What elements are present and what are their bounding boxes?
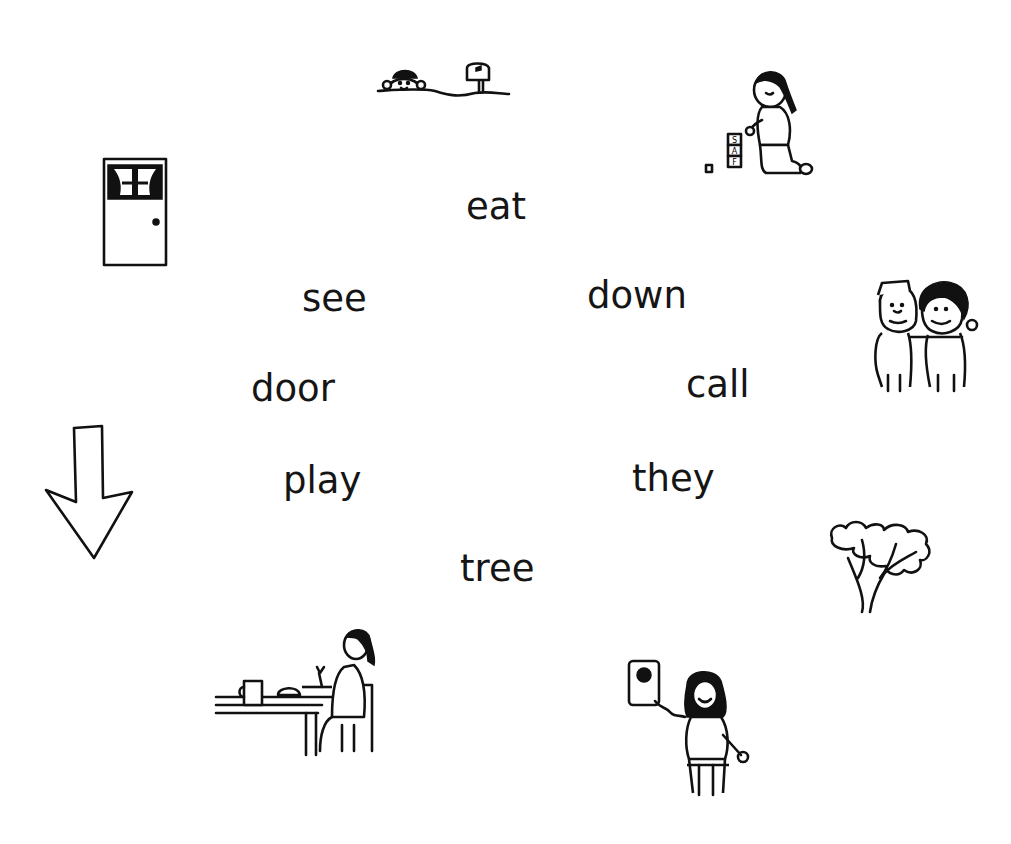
mailbox-icon (467, 64, 489, 93)
down-arrow-icon (46, 426, 132, 558)
child-head-icon (383, 71, 425, 90)
block-stack-icon: S A F (706, 134, 741, 172)
girl-playing-icon (746, 72, 812, 174)
word-down[interactable]: down (587, 277, 687, 314)
picture-girl-phone[interactable] (625, 655, 755, 800)
hill-line (378, 89, 509, 95)
door-icon (104, 159, 166, 265)
picture-friends[interactable] (868, 275, 983, 395)
telephone-girl-icon (629, 661, 748, 795)
picture-door[interactable] (100, 155, 172, 270)
word-call[interactable]: call (686, 366, 750, 403)
word-play[interactable]: play (283, 462, 361, 499)
friends-icon (875, 281, 977, 391)
picture-girl-eating[interactable] (214, 625, 379, 760)
block-letter: S (732, 136, 737, 145)
word-door[interactable]: door (251, 370, 335, 407)
picture-girl-blocks[interactable]: S A F (700, 65, 820, 185)
tree-icon (831, 522, 929, 612)
eating-girl-icon (216, 630, 375, 755)
block-letter: F (732, 158, 737, 167)
word-tree[interactable]: tree (460, 550, 534, 587)
picture-down-arrow[interactable] (42, 422, 138, 564)
word-they[interactable]: they (632, 460, 715, 497)
block-letter: A (732, 147, 738, 156)
picture-tree[interactable] (822, 518, 937, 616)
picture-hill-mailbox[interactable] (375, 60, 515, 104)
word-eat[interactable]: eat (466, 188, 526, 225)
word-see[interactable]: see (302, 280, 367, 317)
